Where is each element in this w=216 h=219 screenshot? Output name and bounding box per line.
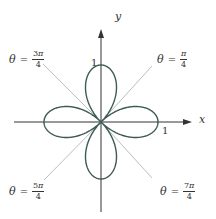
diagonal-line-5pi-4 bbox=[44, 122, 101, 180]
theta-label-5pi-4: θ = 5π4 bbox=[9, 182, 44, 201]
theta-label-7pi-4: θ = 7π4 bbox=[160, 182, 195, 201]
x-axis-arrow-icon bbox=[183, 119, 192, 125]
x-tick-label: 1 bbox=[162, 126, 168, 136]
theta-label-3pi-4: θ = 3π4 bbox=[9, 50, 44, 69]
y-tick-label: 1 bbox=[91, 58, 97, 68]
theta-label-pi-4: θ = π4 bbox=[157, 50, 187, 69]
diagonal-line-3pi-4 bbox=[43, 64, 101, 122]
x-axis-label: x bbox=[199, 114, 205, 125]
y-axis-arrow-icon bbox=[98, 29, 104, 38]
y-axis-label: y bbox=[115, 11, 121, 22]
